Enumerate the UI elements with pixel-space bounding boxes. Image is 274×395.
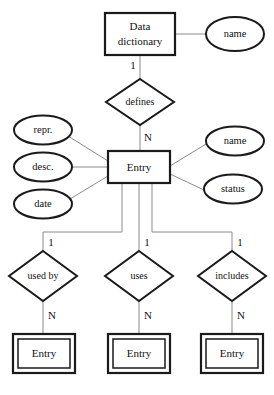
attribute-entry-date-label: date: [34, 198, 52, 209]
entity-weak-entry-left-label: Entry: [32, 347, 57, 359]
attribute-entry-status[interactable]: status: [204, 175, 262, 204]
cardinality-uses-top: 1: [144, 236, 150, 248]
entity-weak-entry-left[interactable]: Entry: [13, 334, 75, 373]
attribute-entry-status-label: status: [221, 183, 245, 194]
er-diagram-canvas: Data dictionary name defines 1 N Entry r…: [0, 0, 274, 395]
cardinality-used-by-top: 1: [48, 236, 54, 248]
entity-weak-entry-right-label: Entry: [220, 347, 245, 359]
cardinality-defines-bottom: N: [144, 131, 152, 143]
relationship-includes-label: includes: [215, 270, 248, 281]
connector-entry-to-name: [170, 144, 206, 166]
attribute-entry-name-label: name: [224, 135, 247, 146]
cardinality-used-by-bottom: N: [48, 309, 56, 321]
connector-entry-to-status: [170, 174, 204, 190]
relationship-uses-label: uses: [130, 270, 147, 281]
relationship-uses[interactable]: uses: [105, 251, 173, 301]
relationship-defines[interactable]: defines: [106, 79, 174, 125]
attribute-entry-repr-label: repr.: [34, 124, 53, 135]
entity-weak-entry-right[interactable]: Entry: [201, 334, 263, 373]
entity-entry-label: Entry: [127, 161, 152, 173]
attribute-entry-repr[interactable]: repr.: [14, 116, 72, 145]
entity-data-dictionary[interactable]: Data dictionary: [105, 13, 175, 55]
entity-data-dictionary-label-line1: Data: [130, 20, 151, 32]
relationship-used-by-label: used by: [28, 270, 59, 281]
entity-entry[interactable]: Entry: [108, 151, 170, 183]
entity-weak-entry-middle[interactable]: Entry: [108, 334, 170, 373]
relationship-includes[interactable]: includes: [198, 251, 266, 301]
entity-weak-entry-middle-label: Entry: [127, 347, 152, 359]
relationship-defines-label: defines: [126, 96, 155, 107]
cardinality-includes-top: 1: [237, 236, 243, 248]
entity-data-dictionary-label-line2: dictionary: [118, 35, 163, 47]
connector-entry-to-repr: [68, 136, 108, 161]
attribute-entry-desc-label: desc.: [32, 161, 53, 172]
connector-entry-to-date: [70, 176, 108, 199]
attribute-dictionary-name-label: name: [224, 28, 247, 39]
attribute-dictionary-name[interactable]: name: [206, 17, 264, 51]
attribute-entry-date[interactable]: date: [14, 190, 72, 219]
cardinality-uses-bottom: N: [144, 309, 152, 321]
relationship-used-by[interactable]: used by: [9, 251, 77, 301]
cardinality-defines-top: 1: [130, 59, 136, 71]
cardinality-includes-bottom: N: [237, 309, 245, 321]
attribute-entry-desc[interactable]: desc.: [14, 153, 72, 182]
attribute-entry-name[interactable]: name: [206, 127, 264, 156]
